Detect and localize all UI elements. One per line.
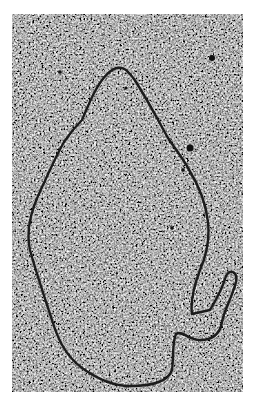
micrograph-canvas bbox=[12, 14, 243, 392]
particle-dot bbox=[181, 168, 185, 172]
particle-dot bbox=[170, 226, 174, 230]
particle-dot bbox=[58, 70, 62, 74]
particle-dot bbox=[125, 87, 128, 90]
particle-dot bbox=[209, 55, 215, 61]
dna-micrograph bbox=[12, 14, 243, 392]
particle-dot bbox=[187, 145, 194, 152]
